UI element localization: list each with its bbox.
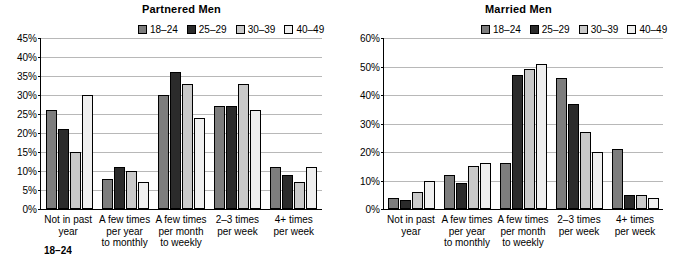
bar (170, 72, 181, 209)
legend-swatch-25-29 (530, 25, 539, 34)
bar (82, 95, 93, 209)
y-axis-tick-label: 40% (17, 52, 37, 63)
panel-partnered-men: Partnered Men 18–24 25–29 30–39 40–49 0%… (0, 0, 341, 254)
bar (536, 64, 547, 209)
bar (306, 167, 317, 209)
plot-area: 0%10%20%30%40%50%60% (383, 38, 663, 210)
bar (250, 110, 261, 209)
legend-label: 30–39 (248, 24, 276, 35)
bar (624, 195, 635, 209)
bar (456, 183, 467, 209)
bar-group (440, 38, 496, 209)
chart-page: Partnered Men 18–24 25–29 30–39 40–49 0%… (0, 0, 682, 254)
bar (592, 152, 603, 209)
y-axis-tick-label: 10% (360, 175, 380, 186)
legend: 18–24 25–29 30–39 40–49 (481, 24, 667, 35)
y-axis-tick-label: 50% (360, 61, 380, 72)
bar (294, 182, 305, 209)
y-axis-tick-label: 45% (17, 33, 37, 44)
x-axis-label: 2–3 timesper week (209, 214, 265, 249)
y-axis-tick-label: 25% (17, 109, 37, 120)
bar (114, 167, 125, 209)
legend-swatch-18-24 (138, 25, 147, 34)
bar (636, 195, 647, 209)
bar-group (153, 38, 209, 209)
footnote: 18–24 (44, 245, 72, 254)
bar (400, 200, 411, 209)
legend-label: 25–29 (542, 24, 570, 35)
bar (580, 132, 591, 209)
bar (612, 149, 623, 209)
legend-label: 25–29 (199, 24, 227, 35)
bar (194, 118, 205, 209)
x-axis-label: 4+ timesper week (607, 214, 663, 249)
bar (424, 181, 435, 210)
y-axis-tick-label: 15% (17, 147, 37, 158)
panel-title: Partnered Men (0, 3, 341, 15)
bar (648, 198, 659, 209)
y-axis-tick-label: 5% (23, 185, 37, 196)
panel-married-men: Married Men 18–24 25–29 30–39 40–49 0%10… (341, 0, 682, 254)
legend-label: 18–24 (150, 24, 178, 35)
bar (238, 84, 249, 209)
bar (412, 192, 423, 209)
bar (524, 69, 535, 209)
legend-swatch-18-24 (481, 25, 490, 34)
y-axis-tick-label: 10% (17, 166, 37, 177)
plot-area: 0%5%10%15%20%25%30%35%40%45% (40, 38, 322, 210)
bar (226, 106, 237, 209)
x-axis-label: Not in pastyear (383, 214, 439, 249)
legend-label: 30–39 (591, 24, 619, 35)
legend-swatch-40-49 (284, 25, 293, 34)
legend-swatch-30-39 (579, 25, 588, 34)
bar-group (41, 38, 97, 209)
legend-swatch-40-49 (627, 25, 636, 34)
legend-item: 18–24 (138, 24, 178, 35)
bar-group (607, 38, 663, 209)
legend-swatch-30-39 (236, 25, 245, 34)
y-axis-tick-label: 60% (360, 33, 380, 44)
bar (58, 129, 69, 209)
legend-item: 30–39 (236, 24, 276, 35)
y-axis-tick-label: 0% (23, 204, 37, 215)
legend-item: 18–24 (481, 24, 521, 35)
legend-swatch-25-29 (187, 25, 196, 34)
bar (468, 166, 479, 209)
x-axis-label: 2–3 timesper week (551, 214, 607, 249)
legend-item: 25–29 (530, 24, 570, 35)
legend-item: 40–49 (627, 24, 667, 35)
legend: 18–24 25–29 30–39 40–49 (138, 24, 324, 35)
x-axis-label: A few timesper monthto weekly (495, 214, 551, 249)
bar-groups (41, 38, 322, 209)
legend-label: 40–49 (639, 24, 667, 35)
y-axis-tick-label: 40% (360, 90, 380, 101)
y-axis-tick-label: 20% (17, 128, 37, 139)
bar (270, 167, 281, 209)
bar (388, 198, 399, 209)
bar (126, 171, 137, 209)
x-axis-label: A few timesper monthto weekly (153, 214, 209, 249)
x-axis-label: A few timesper yearto monthly (96, 214, 152, 249)
legend-item: 30–39 (579, 24, 619, 35)
bar (182, 84, 193, 209)
bar-group (551, 38, 607, 209)
bar (102, 179, 113, 209)
bar (138, 182, 149, 209)
legend-label: 40–49 (296, 24, 324, 35)
bar (500, 163, 511, 209)
x-axis-label: A few timesper yearto monthly (439, 214, 495, 249)
y-axis-tick-label: 0% (366, 204, 380, 215)
x-axis-labels: Not in pastyearA few timesper yearto mon… (383, 214, 663, 249)
bar (568, 104, 579, 209)
bar-group (266, 38, 322, 209)
bar (556, 78, 567, 209)
bar-groups (384, 38, 663, 209)
y-axis-tick-label: 30% (17, 90, 37, 101)
y-axis-tick-label: 35% (17, 71, 37, 82)
bar (512, 75, 523, 209)
bar (480, 163, 491, 209)
bar (158, 95, 169, 209)
bar (214, 106, 225, 209)
bar-group (210, 38, 266, 209)
bar (282, 175, 293, 209)
